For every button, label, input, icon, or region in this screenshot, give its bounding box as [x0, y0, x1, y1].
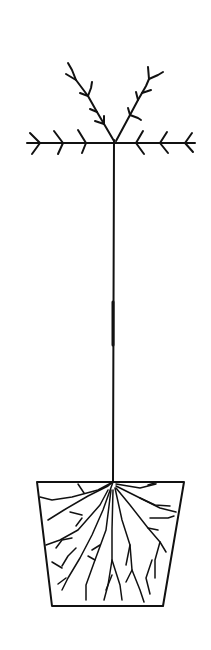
right-leader-branch [116, 67, 163, 141]
trunk [113, 140, 114, 482]
left-leader-branch [66, 63, 114, 141]
tree-drawing [0, 0, 211, 650]
roots [40, 482, 176, 602]
tree-in-pot-illustration [0, 0, 211, 650]
horizontal-branches [27, 130, 195, 154]
